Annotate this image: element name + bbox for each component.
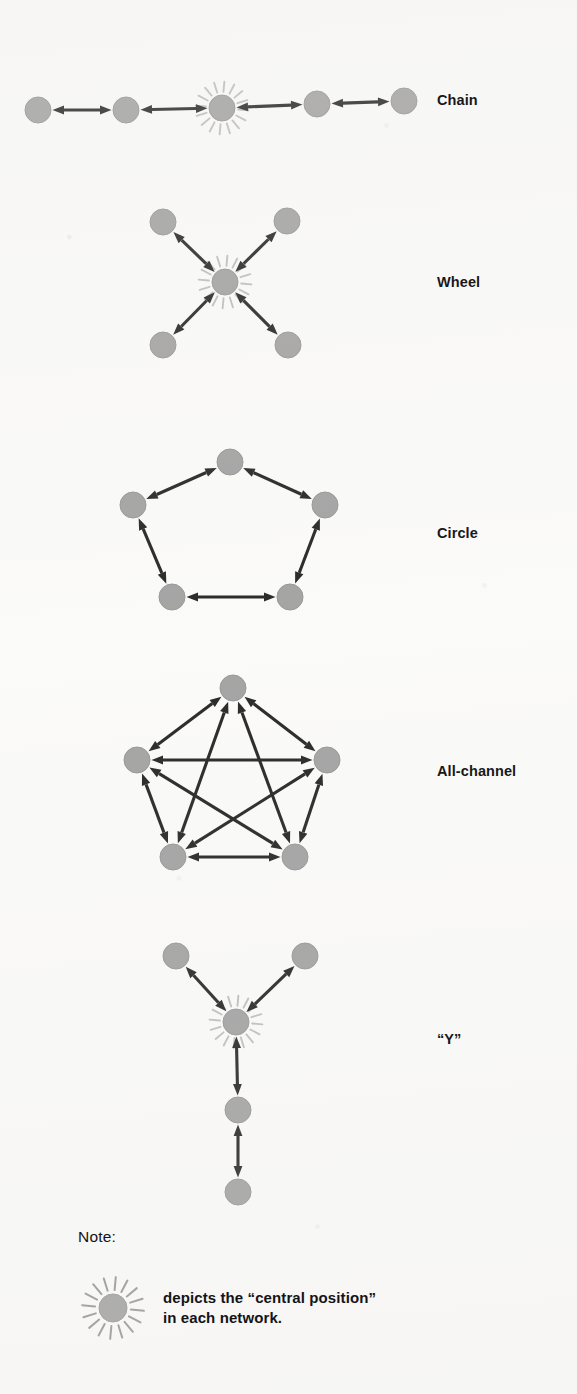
central-position-ray	[237, 100, 247, 103]
network-diagrams-canvas	[0, 0, 577, 1394]
network-wheel	[150, 208, 301, 358]
legend-ray	[82, 1305, 95, 1306]
central-position-ray	[252, 1023, 262, 1024]
edge-shaft	[146, 784, 164, 832]
edge-shaft	[243, 300, 269, 326]
edge-shaft	[254, 473, 302, 495]
legend-ray	[125, 1322, 133, 1332]
arrowhead	[271, 840, 283, 850]
central-position-ray	[230, 297, 233, 307]
edge-shaft	[237, 1048, 238, 1084]
central-position-ray	[210, 1020, 220, 1021]
central-position-ray	[241, 1037, 244, 1047]
network-node	[113, 97, 139, 123]
central-position-ray	[217, 257, 220, 267]
network-label-y: “Y”	[437, 1031, 461, 1047]
edge-shaft	[152, 109, 196, 110]
legend-ray	[89, 1320, 99, 1328]
network-all-channel	[124, 675, 340, 870]
central-position-ray	[210, 122, 215, 131]
arrowhead	[187, 593, 199, 602]
arrowhead	[139, 518, 148, 530]
central-position-ray	[230, 85, 235, 94]
central-position-ray	[211, 1027, 221, 1030]
edge-shaft	[157, 473, 206, 495]
arrowhead	[100, 106, 112, 115]
edge-shaft	[244, 239, 269, 264]
arrowhead	[140, 105, 152, 114]
legend-ray	[83, 1313, 95, 1317]
legend-ray	[110, 1326, 111, 1339]
central-position-ray	[236, 116, 245, 121]
network-node-central	[209, 95, 235, 121]
legend-ray	[130, 1299, 142, 1303]
edge-shaft	[242, 712, 286, 832]
network-node	[391, 88, 417, 114]
legend-ray	[93, 1284, 101, 1294]
central-position-ray	[214, 83, 217, 93]
central-position-ray	[220, 124, 221, 134]
network-circle	[120, 449, 338, 610]
arrowhead	[238, 702, 246, 714]
network-node	[220, 675, 246, 701]
edge-shaft	[143, 529, 162, 573]
edge-shaft	[343, 102, 378, 103]
network-label-chain: Chain	[437, 92, 478, 108]
central-position-ray	[200, 287, 210, 290]
legend-node	[99, 1294, 127, 1322]
central-position-ray	[226, 256, 227, 266]
arrowhead	[234, 1125, 243, 1137]
arrowhead	[220, 702, 228, 714]
arrowhead	[282, 831, 290, 843]
edge-shaft	[255, 974, 286, 1004]
network-node	[217, 449, 243, 475]
arrowhead	[299, 831, 307, 843]
network-node	[312, 492, 338, 518]
arrowhead	[149, 768, 161, 778]
central-position-ray	[246, 1034, 253, 1042]
edge-shaft	[181, 301, 207, 327]
network-node	[274, 208, 300, 234]
central-position-ray	[216, 1032, 224, 1039]
arrowhead	[178, 831, 186, 843]
legend-ray	[131, 1310, 144, 1311]
network-node-central	[223, 1009, 249, 1035]
network-node	[159, 584, 185, 610]
arrowhead	[299, 490, 311, 499]
network-node-central	[212, 269, 238, 295]
legend-ray	[86, 1294, 98, 1300]
edge-shaft	[303, 785, 319, 833]
arrowhead	[303, 768, 315, 778]
network-y	[163, 943, 318, 1205]
arrowhead	[158, 571, 167, 583]
edge-shaft	[158, 704, 212, 745]
legend-ray	[99, 1324, 105, 1336]
arrowhead	[233, 1084, 242, 1096]
network-node	[282, 844, 308, 870]
network-label-wheel: Wheel	[437, 274, 480, 290]
network-node	[292, 943, 318, 969]
network-node	[277, 584, 303, 610]
central-position-ray	[205, 88, 212, 96]
arrowhead	[188, 853, 200, 862]
edge-shaft	[299, 529, 316, 572]
central-position-ray	[202, 118, 210, 125]
central-position-ray	[239, 290, 248, 295]
central-position-ray	[240, 274, 250, 277]
network-node	[25, 97, 51, 123]
central-position-ray	[244, 999, 249, 1008]
central-position-ray	[199, 96, 208, 101]
network-node	[304, 91, 330, 117]
legend-ray	[121, 1281, 127, 1293]
central-position-ray	[232, 120, 239, 128]
central-position-ray	[213, 296, 218, 305]
network-node	[124, 747, 150, 773]
edge-shaft	[182, 713, 225, 833]
network-node	[225, 1179, 251, 1205]
central-position-ray	[199, 280, 209, 281]
central-position-ray	[234, 91, 242, 98]
network-node	[225, 1097, 251, 1123]
edge-shaft	[193, 975, 218, 1003]
network-label-circle: Circle	[437, 525, 478, 541]
arrowhead	[291, 101, 303, 110]
